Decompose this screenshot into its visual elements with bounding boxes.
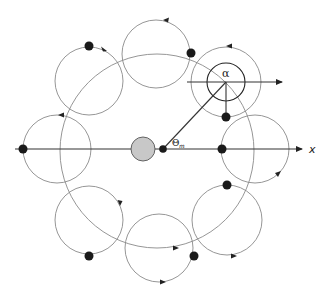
alpha-label: α <box>222 67 230 80</box>
planet-dots <box>19 42 232 261</box>
theta-subscript: m <box>179 142 185 149</box>
dot-upper-right <box>222 113 231 122</box>
arrow-upper-left-icon <box>101 47 107 52</box>
dot-upper-left <box>85 42 94 51</box>
epicycles <box>23 20 289 282</box>
dot-lower-right <box>223 181 232 190</box>
arrow-left-icon <box>58 113 64 118</box>
dot-bottom <box>190 252 199 261</box>
dot-left <box>19 145 28 154</box>
central-body <box>131 137 155 161</box>
dot-top <box>187 49 196 58</box>
arrow-bottom-icon <box>160 280 166 285</box>
orbit-center-dot <box>159 145 167 153</box>
x-axis-label: x <box>308 143 316 156</box>
arrow-upper-right-icon <box>226 44 232 49</box>
epicycle-upper-left <box>55 47 123 115</box>
dot-lower-left <box>85 252 94 261</box>
direction-arrows <box>58 18 281 285</box>
dot-right <box>218 145 227 154</box>
epicycle-lower-right <box>192 185 262 255</box>
epicycle-diagram: x α Θ m <box>0 0 329 297</box>
